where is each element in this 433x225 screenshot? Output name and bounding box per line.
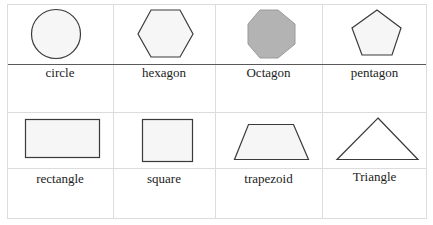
shape-label-octagon: Octagon: [215, 65, 322, 80]
shape-label-triangle: Triangle: [322, 169, 427, 184]
shape-label-trapezoid: trapezoid: [215, 171, 322, 186]
rectangle-icon: [26, 120, 100, 158]
pentagon-icon: [352, 10, 401, 55]
shape-label-rectangle: rectangle: [7, 171, 113, 186]
hexagon-icon: [138, 10, 193, 57]
square-icon: [143, 120, 193, 162]
shape-label-hexagon: hexagon: [113, 65, 215, 80]
shape-label-pentagon: pentagon: [322, 65, 427, 80]
trapezoid-icon: [235, 125, 309, 160]
triangle-icon: [337, 118, 418, 160]
circle-icon: [32, 10, 81, 59]
octagon-icon: [248, 10, 295, 58]
shape-label-circle: circle: [7, 65, 113, 80]
shapes-canvas: [0, 0, 433, 225]
shape-label-square: square: [113, 171, 215, 186]
shapes-page: circle hexagon Octagon pentagon rectangl…: [0, 0, 433, 225]
